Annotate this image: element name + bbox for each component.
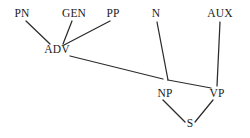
edge-np-vp [168, 80, 211, 88]
node-label-aux: AUX [207, 7, 233, 19]
edge-vp-s [195, 100, 213, 122]
node-label-np: NP [157, 87, 172, 99]
node-label-pn: PN [14, 7, 30, 19]
edge-np-s [163, 100, 185, 122]
node-label-gen: GEN [62, 7, 87, 19]
node-label-n: N [152, 7, 161, 19]
edge-pn-adv [26, 21, 50, 44]
node-label-adv: ADV [44, 43, 70, 55]
tree-diagram: PN GEN PP N AUX ADV NP VP S [0, 0, 250, 138]
tree-diagram-canvas: PN GEN PP N AUX ADV NP VP S [0, 0, 250, 138]
node-label-vp: VP [209, 87, 224, 99]
node-label-s: S [187, 117, 194, 129]
node-label-pp: PP [106, 7, 119, 19]
edge-adv-np [70, 56, 163, 79]
tree-nodes: PN GEN PP N AUX ADV NP VP S [14, 7, 233, 129]
edge-n-np [157, 22, 168, 80]
edge-gen-adv [63, 21, 72, 44]
edge-aux-vp [217, 22, 220, 86]
tree-edges [26, 21, 220, 122]
